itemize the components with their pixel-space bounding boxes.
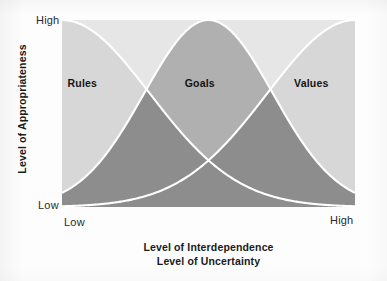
- figure-container: Level of Appropriateness High Low Low Hi…: [0, 0, 387, 281]
- region-label-rules: Rules: [68, 77, 98, 89]
- curves-svg: [62, 20, 355, 207]
- plot-area: Rules Goals Values: [62, 20, 355, 207]
- x-axis-tick-low: Low: [64, 216, 85, 228]
- region-label-goals: Goals: [185, 77, 215, 89]
- x-axis-title-line2: Level of Uncertainty: [62, 254, 355, 268]
- region-label-values: Values: [294, 77, 328, 89]
- x-axis-title-line1: Level of Interdependence: [62, 240, 355, 254]
- y-axis-title: Level of Appropriateness: [16, 19, 28, 199]
- y-axis-tick-high: High: [36, 14, 59, 26]
- y-axis-tick-low: Low: [38, 199, 59, 211]
- x-axis-title: Level of Interdependence Level of Uncert…: [62, 240, 355, 268]
- x-axis-tick-high: High: [330, 214, 353, 226]
